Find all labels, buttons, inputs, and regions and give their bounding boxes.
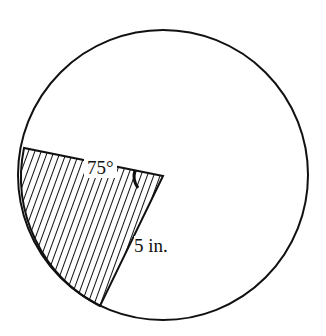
angle-label: 75° bbox=[84, 158, 117, 178]
circle-diagram bbox=[0, 0, 326, 336]
radius-label: 5 in. bbox=[134, 236, 168, 256]
